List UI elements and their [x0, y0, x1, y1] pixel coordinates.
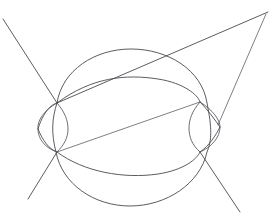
geometric-figure-svg [0, 0, 273, 219]
figure-canvas [0, 0, 273, 219]
figure-background [0, 0, 273, 219]
